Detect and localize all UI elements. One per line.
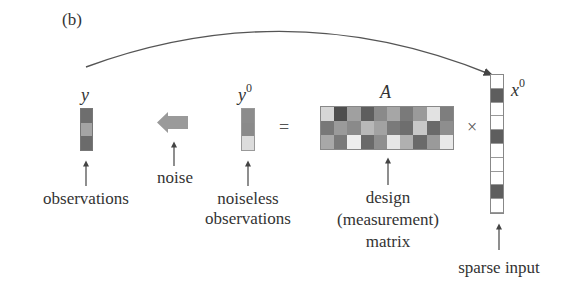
vector-x0 — [490, 74, 504, 214]
label-observations: observations — [36, 189, 136, 209]
matrix-cell — [347, 121, 360, 135]
vector-cell — [491, 158, 503, 172]
vector-cell — [242, 109, 254, 123]
label-design-line1: design — [338, 188, 438, 208]
matrix-cell — [334, 107, 347, 121]
vector-cell — [242, 123, 254, 137]
vector-y0 — [241, 108, 255, 151]
equals-sign: = — [279, 117, 289, 138]
vector-cell — [491, 130, 503, 144]
matrix-cell — [387, 135, 400, 149]
symbol-y: y — [81, 85, 89, 106]
matrix-cell — [387, 121, 400, 135]
symbol-x0-base: x — [511, 80, 519, 100]
matrix-cell — [361, 107, 374, 121]
vector-cell — [491, 199, 503, 213]
matrix-cell — [387, 107, 400, 121]
matrix-cell — [440, 135, 453, 149]
label-noiseless-line1: noiseless — [198, 189, 298, 209]
matrix-cell — [321, 107, 334, 121]
vector-cell — [491, 116, 503, 130]
vector-cell — [491, 75, 503, 89]
matrix-cell — [413, 135, 426, 149]
symbol-x0-superscript: 0 — [519, 76, 525, 90]
matrix-cell — [400, 107, 413, 121]
matrix-cell — [440, 121, 453, 135]
matrix-cell — [440, 107, 453, 121]
vector-y — [80, 108, 93, 151]
matrix-cell — [374, 107, 387, 121]
matrix-cell — [334, 135, 347, 149]
vector-cell — [81, 136, 92, 150]
matrix-cell — [361, 135, 374, 149]
vector-cell — [491, 103, 503, 117]
symbol-y0-base: y — [238, 85, 246, 105]
vector-cell — [491, 89, 503, 103]
vector-cell — [491, 185, 503, 199]
matrix-cell — [361, 121, 374, 135]
matrix-cell — [321, 135, 334, 149]
symbol-y0: y0 — [238, 83, 252, 106]
noise-arrow-icon — [157, 112, 188, 133]
label-noise: noise — [150, 168, 200, 188]
symbol-A: A — [380, 82, 391, 103]
label-noiseless-line2: observations — [198, 209, 298, 229]
matrix-cell — [400, 121, 413, 135]
feedback-arc — [86, 31, 492, 75]
label-sparse-input: sparse input — [444, 258, 554, 278]
matrix-cell — [413, 121, 426, 135]
matrix-A — [320, 106, 454, 150]
vector-cell — [81, 123, 92, 137]
matrix-cell — [400, 135, 413, 149]
matrix-cell — [374, 121, 387, 135]
matrix-cell — [427, 135, 440, 149]
vector-cell — [81, 109, 92, 123]
matrix-cell — [321, 121, 334, 135]
vector-cell — [491, 172, 503, 186]
matrix-cell — [427, 107, 440, 121]
symbol-x0: x0 — [511, 78, 525, 101]
panel-label: (b) — [62, 10, 82, 30]
matrix-cell — [413, 107, 426, 121]
vector-cell — [242, 136, 254, 150]
label-design-line3: matrix — [338, 232, 438, 252]
matrix-cell — [374, 135, 387, 149]
vector-cell — [491, 144, 503, 158]
matrix-cell — [334, 121, 347, 135]
times-sign: × — [467, 117, 477, 138]
symbol-y0-superscript: 0 — [246, 81, 252, 95]
matrix-cell — [347, 107, 360, 121]
label-design-line2: (measurement) — [318, 210, 458, 230]
matrix-cell — [347, 135, 360, 149]
matrix-cell — [427, 121, 440, 135]
